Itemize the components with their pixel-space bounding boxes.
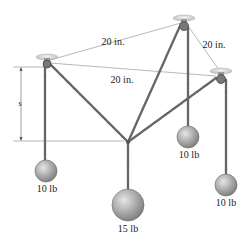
weight-label-right: 10 lb	[216, 197, 236, 208]
weight-middle-right	[177, 126, 199, 148]
ropes	[45, 26, 226, 189]
weight-label-center: 15 lb	[118, 223, 138, 234]
pulley-wheel-icon	[43, 60, 51, 68]
pulley-top	[173, 15, 195, 31]
junction-knot	[126, 140, 130, 144]
arrow-down-icon	[20, 137, 23, 141]
weight-right	[215, 174, 237, 196]
arrow-up-icon	[20, 67, 23, 71]
dim-label-s: s	[18, 98, 22, 108]
pulley-system-diagram: 20 in. 20 in. 20 in. s 10 lb 15 lb 10 lb…	[0, 0, 252, 245]
pulley-wheel-icon	[180, 22, 189, 31]
weight-label-left: 10 lb	[37, 183, 57, 194]
rope-top-to-junction	[128, 26, 180, 142]
weight-left	[35, 160, 57, 182]
dim-label-left-top: 20 in.	[102, 36, 125, 47]
weight-label-middle-right: 10 lb	[179, 149, 199, 160]
pulley-left	[36, 54, 58, 68]
pulley-wheel-icon	[217, 75, 226, 84]
dim-label-top-right: 20 in.	[203, 39, 226, 50]
weight-center	[112, 189, 144, 221]
dim-label-left-right: 20 in.	[111, 74, 134, 85]
